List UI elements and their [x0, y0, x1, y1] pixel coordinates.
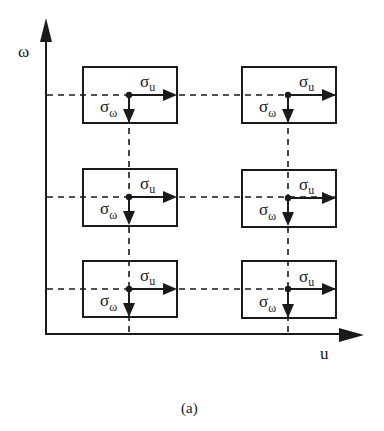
x-axis-label: u [320, 344, 329, 363]
cell-r1-c1: σu σω [83, 67, 177, 123]
cell-r2-c1: σu σω [83, 169, 177, 226]
sigma-u-label: σu [140, 72, 155, 94]
sigma-omega-label: σω [259, 292, 276, 315]
cell-r2-c2: σu σω [242, 170, 336, 227]
sigma-u-arrowhead-icon [322, 192, 336, 204]
sigma-u-arrowhead-icon [163, 283, 177, 295]
center-dot [126, 194, 132, 200]
sigma-u-label: σu [140, 174, 155, 196]
sigma-omega-arrowhead-icon [282, 109, 294, 123]
figure-caption: (a) [181, 400, 198, 417]
sigma-u-label: σu [299, 267, 314, 289]
time-frequency-tiling-diagram: ω u σu σω σu σω σu σω [0, 0, 384, 431]
sigma-omega-arrowhead-icon [123, 303, 135, 317]
y-axis-arrow-icon [40, 18, 52, 42]
center-dot [126, 286, 132, 292]
sigma-omega-arrowhead-icon [282, 304, 294, 318]
y-axis-label: ω [18, 42, 29, 61]
sigma-omega-arrowhead-icon [123, 211, 135, 225]
sigma-u-arrowhead-icon [322, 283, 336, 295]
cell-r3-c1: σu σω [83, 261, 177, 317]
x-axis-arrow-icon [339, 328, 364, 342]
sigma-u-label: σu [299, 72, 314, 94]
sigma-u-arrowhead-icon [322, 89, 336, 101]
sigma-u-arrowhead-icon [163, 89, 177, 101]
sigma-omega-label: σω [259, 200, 276, 223]
sigma-u-arrowhead-icon [163, 191, 177, 203]
sigma-omega-label: σω [259, 97, 276, 120]
center-dot [285, 195, 291, 201]
sigma-u-label: σu [299, 175, 314, 197]
sigma-omega-label: σω [100, 97, 117, 120]
sigma-u-label: σu [140, 266, 155, 288]
sigma-omega-label: σω [100, 199, 117, 222]
sigma-omega-label: σω [100, 291, 117, 314]
center-dot [285, 286, 291, 292]
sigma-omega-arrowhead-icon [282, 212, 294, 226]
center-dot [126, 92, 132, 98]
center-dot [285, 92, 291, 98]
sigma-omega-arrowhead-icon [123, 109, 135, 123]
